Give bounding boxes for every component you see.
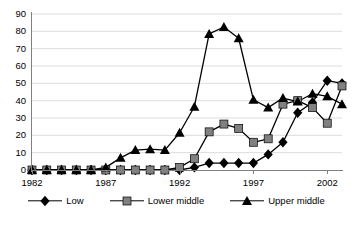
x-axis-tick-mark [32,170,33,174]
y-axis-tick-label: 40 [2,96,26,106]
triangle-marker [189,102,199,111]
legend-item[interactable]: Low [28,196,83,206]
triangle-marker [337,99,347,108]
x-axis-tick-mark [180,170,181,174]
square-marker [264,135,272,143]
x-axis-tick-mark [253,170,254,174]
triangle-marker [234,33,244,42]
diamond-marker [190,162,199,172]
triangle-marker [263,103,273,112]
triangle-marker [116,153,126,162]
chart-legend: LowLower middleUpper middle [0,196,353,206]
y-axis-tick-label: 20 [2,130,26,140]
legend-label: Upper middle [268,196,325,206]
diamond-marker [234,158,243,168]
square-marker [249,138,257,146]
x-axis-tick-mark [106,170,107,174]
y-axis-tick-label: 0 [2,165,26,175]
x-axis-tick-label: 1987 [95,178,116,188]
square-marker [235,124,243,132]
diamond-marker [38,194,52,208]
diamond-marker [264,149,273,159]
legend-marker-swatch [110,196,144,206]
legend-marker-swatch [28,196,62,206]
line-chart: 0102030405060708090 19821987199219972002… [0,0,353,225]
legend-label: Lower middle [148,196,205,206]
y-axis-tick-label: 70 [2,44,26,54]
diamond-marker [249,158,258,168]
square-marker [220,120,228,128]
triangle-marker [240,194,254,208]
plot-area [32,14,342,170]
square-marker [205,128,213,136]
square-marker [120,194,134,208]
diamond-marker [219,158,228,168]
x-axis-tick-label: 1997 [243,178,264,188]
triangle-marker [175,128,185,137]
y-axis-tick-label: 50 [2,78,26,88]
triangle-marker [145,144,155,153]
y-axis-tick-label: 80 [2,26,26,36]
legend-item[interactable]: Upper middle [230,196,325,206]
triangle-marker [219,22,229,31]
square-marker [123,197,131,205]
y-axis-tick-label: 90 [2,9,26,19]
triangle-marker [278,93,288,102]
square-marker [338,82,346,90]
triangle-marker [242,196,252,205]
x-axis-tick-label: 2002 [317,178,338,188]
triangle-marker [307,89,317,98]
diamond-marker [278,137,287,147]
x-axis-tick-mark [327,170,328,174]
series-line [32,81,342,170]
square-marker [308,104,316,112]
triangle-marker [204,29,214,38]
y-axis-tick-label: 60 [2,61,26,71]
y-axis-tick-label: 10 [2,148,26,158]
legend-label: Low [66,196,83,206]
legend-item[interactable]: Lower middle [110,196,205,206]
square-marker [190,155,198,163]
series-markers [28,82,346,174]
series-markers [27,76,346,176]
legend-marker-swatch [230,196,264,206]
y-axis-line [31,12,32,172]
y-axis-tick-label: 30 [2,113,26,123]
x-axis-tick-label: 1982 [21,178,42,188]
diamond-marker [293,108,302,118]
series-layer [32,14,342,170]
x-axis-line [31,170,343,171]
x-axis-tick-label: 1992 [169,178,190,188]
diamond-marker [41,196,50,206]
diamond-marker [205,158,214,168]
triangle-marker [248,95,258,104]
square-marker [323,119,331,127]
